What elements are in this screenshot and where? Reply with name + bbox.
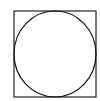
circle-inscribed-in-square-diagram <box>0 0 100 101</box>
inscribed-circle <box>14 11 96 97</box>
diagram-canvas <box>0 0 100 101</box>
